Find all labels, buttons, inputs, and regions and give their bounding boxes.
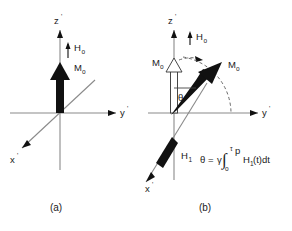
panel-b-axis-y-prime-mark: ' [269, 105, 270, 112]
panel-b-theta-label: θ [178, 92, 183, 103]
panel-a-axis-y-prime: y ' [10, 105, 128, 118]
panel-b-equation: θ = γ ∫ o τ p H 1 (t)dt [200, 145, 270, 172]
panel-b: y ' z ' x ' H o M o [145, 13, 270, 213]
equation-integrand: H [243, 154, 250, 165]
panel-b-axis-x-prime-mark: ' [152, 181, 153, 188]
panel-b-m0-tipped-subscript: o [236, 65, 240, 72]
panel-a-caption: (a) [50, 202, 62, 213]
equation-upper-limit-tau: τ [230, 145, 233, 152]
equation-theta: θ [200, 154, 205, 165]
panel-a: y ' z ' x ' H o M o [10, 13, 128, 213]
panel-a-axis-y-label: y [120, 107, 125, 118]
panel-b-vector-h0: H o [188, 31, 208, 45]
equation-equals: = [208, 154, 214, 165]
panel-b-axis-x-label: x [145, 183, 150, 194]
panel-b-m0-initial-label: M [152, 57, 160, 68]
panel-b-axis-y-label: y [262, 107, 267, 118]
panel-b-m0-tipped-label: M [228, 59, 236, 70]
panel-a-m0-subscript: o [82, 68, 86, 75]
panel-b-vector-m0-initial: M o [152, 57, 182, 113]
equation-lower-limit: o [225, 165, 229, 172]
panel-b-h0-label: H [196, 31, 203, 42]
panel-a-vector-h0: H o [66, 42, 86, 58]
panel-b-tip-arc [183, 57, 231, 113]
nmr-magnetization-figure: y ' z ' x ' H o M o [0, 0, 292, 231]
panel-a-m0-label: M [74, 62, 82, 73]
equation-integrand-variable: (t)dt [253, 154, 270, 165]
panel-a-axis-z-prime-mark: ' [61, 13, 62, 20]
panel-b-caption: (b) [199, 202, 211, 213]
panel-a-h0-subscript: o [82, 48, 86, 55]
panel-b-h1-subscript: 1 [189, 156, 193, 163]
panel-a-axis-x-label: x [10, 154, 15, 165]
panel-b-h1-label: H [181, 150, 188, 161]
panel-a-axis-x-prime-mark: ' [17, 152, 18, 159]
panel-a-h0-label: H [74, 42, 81, 53]
panel-b-axis-z-label: z [168, 15, 173, 26]
panel-b-m0-initial-subscript: o [160, 63, 164, 70]
panel-b-vector-m0-tipped: M o [171, 59, 240, 115]
panel-a-axis-z-label: z [54, 15, 59, 26]
panel-b-axis-z-prime-mark: ' [175, 13, 176, 20]
panel-a-axis-y-prime-mark: ' [127, 105, 128, 112]
equation-upper-limit-sub: p [235, 145, 240, 156]
panel-b-h0-subscript: o [204, 37, 208, 44]
panel-b-axis-y-prime: y ' [148, 105, 270, 118]
panel-a-axis-x-prime: x ' [10, 80, 95, 165]
figure-canvas: y ' z ' x ' H o M o [0, 0, 292, 231]
